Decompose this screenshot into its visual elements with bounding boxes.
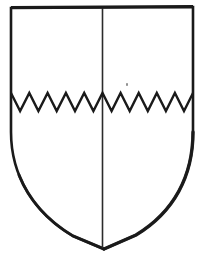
chief-edge xyxy=(11,7,193,8)
shield-drawing: Escutcheon party per pale, divided per f… xyxy=(0,0,201,263)
ink-speck xyxy=(126,83,128,86)
shield-figure-canvas: Escutcheon party per pale, divided per f… xyxy=(0,0,201,263)
